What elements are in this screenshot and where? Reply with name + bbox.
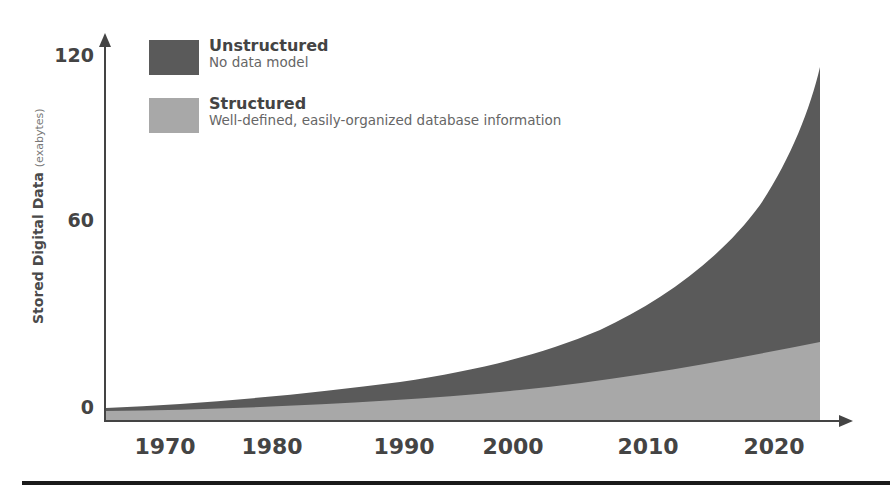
x-tick-1990: 1990	[373, 434, 434, 459]
legend-title-unstructured: Unstructured	[209, 37, 329, 55]
x-tick-2020: 2020	[743, 434, 804, 459]
legend-item-unstructured: Unstructured No data model	[149, 40, 329, 75]
legend-item-structured: Structured Well-defined, easily-organize…	[149, 98, 561, 133]
x-tick-2000: 2000	[482, 434, 543, 459]
bottom-divider	[22, 481, 890, 485]
legend-title-structured: Structured	[209, 95, 561, 113]
area-chart	[0, 0, 890, 504]
y-axis-arrow-icon	[99, 33, 111, 47]
legend-sub-structured: Well-defined, easily-organized database …	[209, 113, 561, 128]
x-tick-1980: 1980	[241, 434, 302, 459]
x-axis-arrow-icon	[839, 415, 853, 427]
legend-sub-unstructured: No data model	[209, 55, 329, 70]
unstructured-swatch	[149, 40, 199, 75]
structured-swatch	[149, 98, 199, 133]
x-tick-1970: 1970	[134, 434, 195, 459]
x-tick-2010: 2010	[617, 434, 678, 459]
